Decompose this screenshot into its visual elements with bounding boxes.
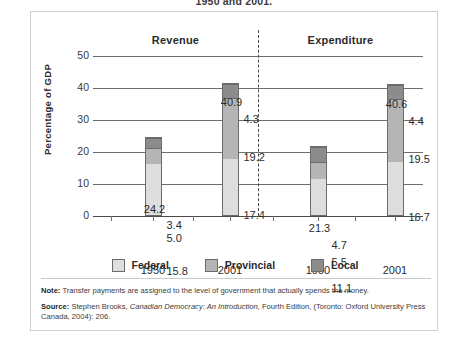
bar-revenue-1950[interactable]: 15.85.03.424.2 bbox=[145, 137, 162, 216]
figure-caption-text: 1950 and 2001. bbox=[196, 0, 273, 5]
segment-value-label: 4.3 bbox=[244, 113, 259, 125]
segment-value-label: 19.2 bbox=[244, 151, 265, 163]
segment-value-label: 4.4 bbox=[409, 115, 424, 127]
legend-swatch-federal bbox=[112, 259, 125, 272]
x-tick-mark-minor bbox=[355, 216, 356, 221]
x-tick-mark bbox=[230, 216, 231, 221]
y-axis-title: Percentage of GDP bbox=[42, 50, 53, 170]
panel-header-expenditure: Expenditure bbox=[258, 34, 423, 46]
legend-label-local: Local bbox=[331, 259, 358, 271]
footnote-divider bbox=[41, 278, 431, 279]
bar-total-label: 40.9 bbox=[210, 96, 254, 108]
note-line: Note: Transfer payments are assigned to … bbox=[41, 286, 431, 296]
bar-total-label: 40.6 bbox=[375, 98, 419, 110]
source-line: Source: Stephen Brooks, Canadian Democra… bbox=[41, 302, 431, 322]
segment-value-label: 4.7 bbox=[332, 239, 347, 251]
footnotes: Note: Transfer payments are assigned to … bbox=[41, 282, 431, 323]
chart-legend: FederalProvincialLocal bbox=[31, 252, 439, 278]
legend-label-federal: Federal bbox=[132, 259, 169, 271]
legend-swatch-local bbox=[311, 259, 324, 272]
panel-divider-dashed bbox=[258, 30, 259, 216]
note-label: Note: bbox=[41, 286, 60, 295]
figure-frame: Revenue Expenditure Percentage of GDP 01… bbox=[30, 11, 438, 331]
bar-total-label: 24.2 bbox=[133, 203, 177, 215]
bar-segment-local[interactable] bbox=[311, 147, 326, 162]
x-tick-mark-minor bbox=[193, 216, 194, 221]
bar-total-label: 21.3 bbox=[298, 222, 342, 234]
chart-plot-region: Revenue Expenditure Percentage of GDP 01… bbox=[31, 12, 439, 252]
segment-value-label: 17.4 bbox=[244, 209, 265, 221]
segment-value-label: 3.4 bbox=[167, 219, 182, 231]
x-tick-mark bbox=[318, 216, 319, 221]
bar-revenue-2001[interactable]: 17.419.24.340.9 bbox=[222, 83, 239, 216]
legend-item-provincial[interactable]: Provincial bbox=[205, 259, 275, 272]
y-tick-label-20: 20 bbox=[63, 145, 89, 157]
y-tick-label-10: 10 bbox=[63, 177, 89, 189]
source-label: Source: bbox=[41, 302, 69, 311]
segment-value-label: 19.5 bbox=[409, 153, 430, 165]
segment-value-label: 16.7 bbox=[409, 211, 430, 223]
bar-segment-provincial[interactable] bbox=[146, 148, 161, 164]
bar-segment-federal[interactable] bbox=[223, 159, 238, 215]
x-tick-mark-minor bbox=[111, 216, 112, 221]
y-tick-label-40: 40 bbox=[63, 81, 89, 93]
legend-swatch-provincial bbox=[205, 259, 218, 272]
bar-expenditure-2001[interactable]: 16.719.54.440.6 bbox=[387, 84, 404, 216]
bar-segment-federal[interactable] bbox=[311, 179, 326, 215]
bar-segment-provincial[interactable] bbox=[311, 162, 326, 180]
y-axis-labels: 01020304050 bbox=[59, 56, 89, 226]
figure-caption: 1950 and 2001. bbox=[0, 0, 468, 5]
y-tick-label-0: 0 bbox=[63, 209, 89, 221]
y-tick-label-50: 50 bbox=[63, 49, 89, 61]
source-title: Canadian Democracy: An Introduction, bbox=[130, 302, 260, 311]
panel-header-revenue: Revenue bbox=[93, 34, 258, 46]
bar-segment-federal[interactable] bbox=[388, 162, 403, 215]
bar-segment-local[interactable] bbox=[146, 138, 161, 149]
note-text: Transfer payments are assigned to the le… bbox=[62, 286, 368, 295]
x-tick-mark-minor bbox=[273, 216, 274, 221]
y-tick-label-30: 30 bbox=[63, 113, 89, 125]
legend-item-federal[interactable]: Federal bbox=[112, 259, 169, 272]
bar-expenditure-1950[interactable]: 11.15.54.721.3 bbox=[310, 146, 327, 216]
legend-label-provincial: Provincial bbox=[225, 259, 275, 271]
legend-item-local[interactable]: Local bbox=[311, 259, 358, 272]
x-tick-mark bbox=[395, 216, 396, 221]
x-tick-mark bbox=[153, 216, 154, 221]
bar-segment-local[interactable] bbox=[388, 85, 403, 99]
source-author: Stephen Brooks, bbox=[71, 302, 127, 311]
x-tick-mark-minor bbox=[415, 216, 416, 221]
segment-value-label: 5.0 bbox=[167, 232, 182, 244]
